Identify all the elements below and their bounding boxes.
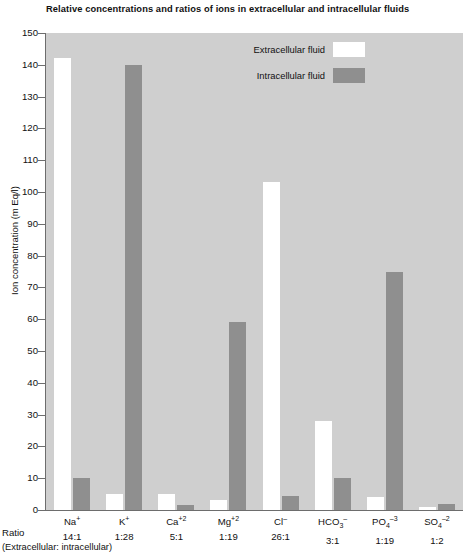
y-tick-label: 110 — [0, 155, 38, 165]
y-tick-mark — [38, 192, 45, 193]
bar-intracellular-po — [386, 272, 403, 511]
y-tick-mark — [38, 224, 45, 225]
chart-title: Relative concentrations and ratios of io… — [46, 4, 461, 14]
y-tick-label: 150 — [0, 28, 38, 38]
y-tick-mark — [38, 415, 45, 416]
y-tick-mark — [38, 160, 45, 161]
bar-extracellular-ca — [158, 494, 175, 510]
bar-intracellular-cl — [282, 496, 299, 510]
bar-intracellular-hco — [334, 478, 351, 510]
y-tick-mark — [38, 65, 45, 66]
x-axis-ion-label: SO4–2 — [397, 512, 465, 532]
bar-extracellular-po — [367, 497, 384, 510]
bar-intracellular-so — [438, 504, 455, 510]
y-tick-label: 10 — [0, 473, 38, 483]
y-tick-label: 120 — [0, 123, 38, 133]
y-tick-mark — [38, 33, 45, 34]
x-axis-ratio-label: 1:2 — [397, 534, 465, 547]
y-axis-line — [45, 33, 46, 511]
bar-extracellular-mg — [210, 500, 227, 510]
y-tick-mark — [38, 319, 45, 320]
bar-extracellular-hco — [315, 421, 332, 510]
bar-intracellular-na — [73, 478, 90, 510]
legend-swatch-extracellular — [333, 42, 365, 57]
y-tick-label: 80 — [0, 251, 38, 261]
legend-item-extracellular: Extracellular fluid — [205, 42, 365, 57]
legend-swatch-intracellular — [333, 68, 365, 83]
y-tick-label: 50 — [0, 346, 38, 356]
chart-root: Relative concentrations and ratios of io… — [0, 0, 465, 555]
y-tick-mark — [38, 383, 45, 384]
bar-intracellular-ca — [177, 505, 194, 510]
y-tick-mark — [38, 256, 45, 257]
bar-extracellular-na — [54, 58, 71, 510]
ratio-note: (Extracellular: intracellular) — [2, 542, 112, 552]
legend-label-intracellular: Intracellular fluid — [257, 70, 325, 81]
y-tick-label: 90 — [0, 219, 38, 229]
bar-intracellular-mg — [229, 322, 246, 510]
y-tick-label: 130 — [0, 92, 38, 102]
bar-extracellular-cl — [263, 182, 280, 510]
bar-extracellular-so — [419, 507, 436, 510]
y-tick-label: 100 — [0, 187, 38, 197]
y-tick-mark — [38, 510, 45, 511]
y-tick-mark — [38, 446, 45, 447]
legend-label-extracellular: Extracellular fluid — [254, 44, 325, 55]
y-tick-label: 40 — [0, 378, 38, 388]
chart-legend: Extracellular fluid Intracellular fluid — [205, 42, 365, 94]
y-tick-mark — [38, 478, 45, 479]
y-tick-mark — [38, 287, 45, 288]
y-tick-label: 60 — [0, 314, 38, 324]
y-tick-label: 30 — [0, 410, 38, 420]
y-tick-label: 140 — [0, 60, 38, 70]
y-tick-label: 70 — [0, 282, 38, 292]
bar-extracellular-k — [106, 494, 123, 510]
x-axis-line — [45, 510, 463, 511]
y-tick-mark — [38, 351, 45, 352]
y-tick-label: 20 — [0, 441, 38, 451]
x-axis-group-so: SO4–21:2 — [397, 512, 465, 547]
bar-intracellular-k — [125, 65, 142, 510]
ratio-row-label: Ratio — [2, 527, 24, 538]
legend-item-intracellular: Intracellular fluid — [205, 68, 365, 83]
y-tick-mark — [38, 128, 45, 129]
y-tick-mark — [38, 97, 45, 98]
